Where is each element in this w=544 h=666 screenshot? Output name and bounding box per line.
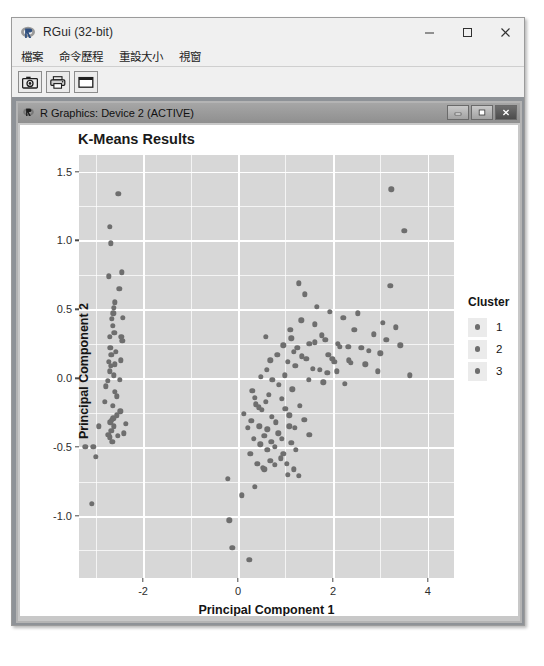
print-button[interactable] [46,71,70,93]
data-point [107,224,112,229]
chart-title: K-Means Results [78,131,195,147]
data-point [380,320,385,325]
main-titlebar: RGui (32-bit) [12,18,524,46]
data-point [288,336,293,341]
data-point [263,334,268,339]
data-point [296,280,301,285]
mdi-client-area: R Graphics: Device 2 (ACTIVE) K-Means Re… [12,97,524,625]
data-point [288,327,293,332]
y-tick-label: 1.5 [57,166,72,178]
data-point [273,420,278,425]
x-tick-label: -2 [138,585,148,597]
data-point [295,345,300,350]
y-tick-mark [75,515,79,516]
camera-icon [22,76,38,89]
window-title: RGui (32-bit) [43,25,113,39]
data-point [288,440,293,445]
gridline-major-horizontal [79,516,454,518]
data-point [389,187,394,192]
kmeans-scatter-chart: K-Means Results Principal Component 2 Pr… [20,125,518,616]
minimize-button[interactable] [410,18,448,46]
data-point [285,359,290,364]
gridline-major-vertical [333,155,335,578]
r-logo-icon [20,24,36,40]
data-point [250,388,255,393]
data-point [82,444,87,449]
y-tick-mark [75,309,79,310]
data-point [247,557,252,562]
data-point [401,228,406,233]
gridline-minor-horizontal [79,206,454,207]
y-tick-mark [75,171,79,172]
gridline-major-horizontal [79,378,454,380]
data-point [116,191,121,196]
data-point [289,387,294,392]
data-point [312,322,317,327]
legend-key [468,318,487,337]
data-point [366,348,371,353]
printer-icon [50,76,66,89]
data-point [269,414,274,419]
gridline-minor-horizontal [79,482,454,483]
data-point [297,403,302,408]
gridline-minor-vertical [96,155,97,578]
gridline-major-vertical [143,155,145,578]
data-point [332,359,337,364]
menu-item-history[interactable]: 命令歷程 [59,48,103,64]
menu-item-windows[interactable]: 視窗 [179,48,201,64]
data-point [325,370,330,375]
data-point [304,356,309,361]
window-button[interactable] [74,71,98,93]
gridline-minor-horizontal [79,550,454,551]
gridline-major-horizontal [79,309,454,311]
y-tick-label: 1.0 [57,234,72,246]
data-point [113,349,118,354]
copy-to-clipboard-button[interactable] [18,71,42,93]
data-point [120,315,125,320]
data-point [107,334,112,339]
data-point [114,393,119,398]
menu-item-resize[interactable]: 重設大小 [119,48,163,64]
legend-key [468,340,487,359]
x-tick-mark [237,578,238,582]
toolbar [12,67,524,98]
data-point [227,517,232,522]
data-point [117,286,122,291]
data-point [359,345,364,350]
data-point [110,323,115,328]
data-point [291,466,296,471]
device-restore-button[interactable] [471,105,493,120]
data-point [108,240,113,245]
data-point [363,362,368,367]
gridline-minor-horizontal [79,413,454,414]
data-point [341,315,346,320]
data-point [110,439,115,444]
data-point [398,342,403,347]
data-point [268,358,273,363]
data-point [352,327,357,332]
data-point [287,413,292,418]
gridline-minor-vertical [191,155,192,578]
data-point [293,447,298,452]
menu-item-file[interactable]: 檔案 [21,48,43,64]
data-point [279,436,284,441]
data-point [257,424,262,429]
x-tick-label: 4 [425,585,431,597]
close-button[interactable] [486,18,524,46]
gridline-major-vertical [238,155,240,578]
data-point [261,433,266,438]
device-title: R Graphics: Device 2 (ACTIVE) [40,107,194,119]
data-point [287,424,292,429]
maximize-button[interactable] [448,18,486,46]
data-point [251,436,256,441]
window-icon [78,76,94,89]
data-point [292,425,297,430]
data-point [296,473,301,478]
data-point [263,399,268,404]
data-point [111,330,116,335]
gridline-major-horizontal [79,172,454,174]
data-point [279,396,284,401]
device-minimize-button[interactable] [447,105,469,120]
legend-key [468,362,487,381]
device-close-button[interactable] [495,105,517,120]
